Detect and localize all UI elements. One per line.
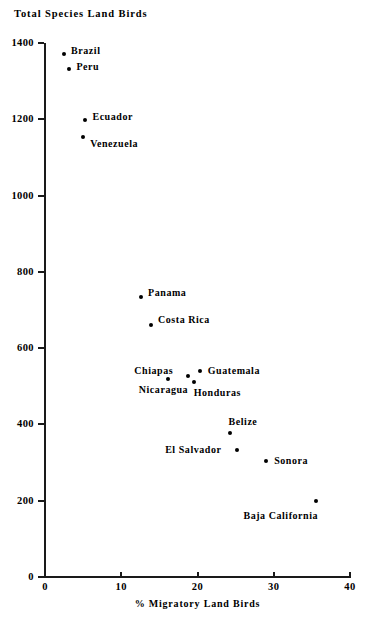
y-axis-line xyxy=(44,43,46,578)
x-axis-tick-label: 0 xyxy=(30,581,60,592)
y-axis-tick xyxy=(38,195,44,197)
data-point xyxy=(228,431,232,435)
y-axis-tick-label: 1200 xyxy=(0,113,34,124)
data-point-label: Brazil xyxy=(71,46,100,56)
data-point xyxy=(67,67,71,71)
data-point-label: Honduras xyxy=(194,388,241,398)
scatter-plot-figure: Total Species Land Birds 020040060080010… xyxy=(0,0,366,620)
y-axis-tick-label: 400 xyxy=(0,418,34,429)
data-point-label: Ecuador xyxy=(92,112,133,122)
x-axis-title: % Migratory Land Birds xyxy=(44,598,351,609)
x-axis-tick-label: 30 xyxy=(259,581,289,592)
data-point xyxy=(186,374,190,378)
y-axis-tick xyxy=(38,347,44,349)
x-axis-tick xyxy=(120,572,122,578)
y-axis-tick-label: 1400 xyxy=(0,37,34,48)
data-point xyxy=(62,52,66,56)
data-point xyxy=(166,377,170,381)
data-point-label: Belize xyxy=(229,417,258,427)
data-point-label: Guatemala xyxy=(208,366,260,376)
x-axis-tick xyxy=(273,572,275,578)
y-axis-tick-label: 600 xyxy=(0,342,34,353)
x-axis-tick xyxy=(349,572,351,578)
data-point xyxy=(264,459,268,463)
y-axis-tick-label: 1000 xyxy=(0,190,34,201)
data-point-label: Nicaragua xyxy=(139,385,188,395)
data-point xyxy=(314,499,318,503)
y-axis-tick xyxy=(38,42,44,44)
data-point-label: Panama xyxy=(148,288,186,298)
data-point-label: Sonora xyxy=(274,456,308,466)
x-axis-tick-label: 40 xyxy=(335,581,365,592)
x-axis-tick-label: 20 xyxy=(183,581,213,592)
data-point xyxy=(198,369,202,373)
y-axis-tick-label: 200 xyxy=(0,495,34,506)
y-axis-tick xyxy=(38,118,44,120)
y-axis-tick xyxy=(38,271,44,273)
data-point xyxy=(149,323,153,327)
data-point-label: Venezuela xyxy=(90,139,138,149)
y-axis-tick-label: 800 xyxy=(0,266,34,277)
y-axis-tick-label: 0 xyxy=(0,571,34,582)
y-axis-tick xyxy=(38,576,44,578)
data-point xyxy=(192,380,196,384)
y-axis-tick xyxy=(38,423,44,425)
x-axis-tick-label: 10 xyxy=(106,581,136,592)
data-point-label: Peru xyxy=(76,62,99,72)
plot-area: 0200400600800100012001400 010203040 Braz… xyxy=(0,0,366,620)
x-axis-tick xyxy=(197,572,199,578)
data-point xyxy=(83,118,87,122)
y-axis-tick xyxy=(38,500,44,502)
data-point-label: Chiapas xyxy=(134,366,173,376)
data-point xyxy=(81,135,85,139)
data-point xyxy=(235,448,239,452)
data-point xyxy=(139,295,143,299)
data-point-label: Baja California xyxy=(243,511,318,521)
data-point-label: El Salvador xyxy=(165,445,221,455)
data-point-label: Costa Rica xyxy=(158,315,210,325)
